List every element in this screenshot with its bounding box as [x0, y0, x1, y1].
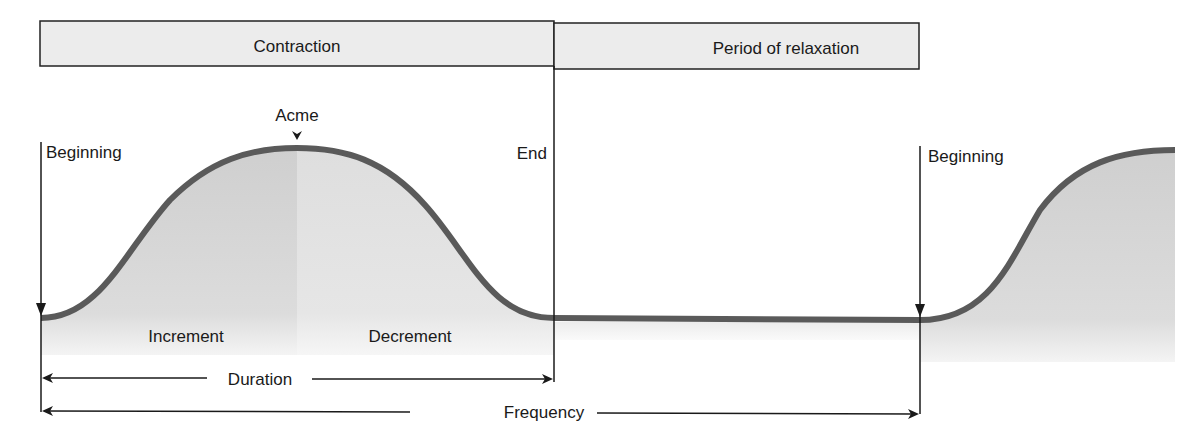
- uterine-contraction-diagram: Contraction Period of relaxation Acme Be…: [0, 0, 1199, 438]
- beginning-label-2: Beginning: [928, 147, 1004, 166]
- contraction-label: Contraction: [254, 37, 341, 56]
- acme-arrowhead-icon: [292, 131, 302, 140]
- increment-label: Increment: [148, 327, 224, 346]
- decrement-area: [297, 148, 554, 355]
- relaxation-label: Period of relaxation: [713, 39, 859, 58]
- next-contraction-area: [920, 150, 1175, 362]
- duration-label: Duration: [228, 370, 292, 389]
- frequency-label: Frequency: [504, 403, 585, 422]
- frequency-indicator: Frequency: [42, 403, 919, 422]
- beginning-1-arrowhead-icon: [36, 303, 46, 316]
- duration-indicator: Duration: [42, 370, 553, 389]
- beginning-2-arrowhead-icon: [915, 304, 925, 317]
- end-label: End: [517, 144, 547, 163]
- phase-header: Contraction Period of relaxation: [40, 21, 919, 69]
- decrement-label: Decrement: [368, 327, 451, 346]
- acme-label: Acme: [275, 106, 318, 125]
- increment-area: [41, 148, 297, 355]
- beginning-label-1: Beginning: [46, 143, 122, 162]
- relaxation-shadow: [554, 322, 920, 340]
